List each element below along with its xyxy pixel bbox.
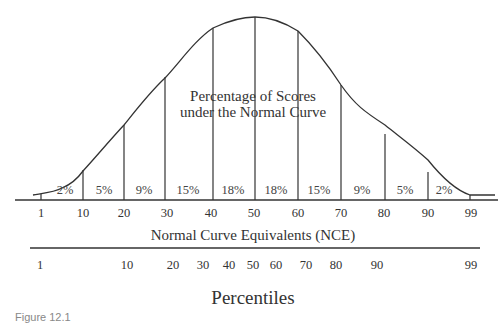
segment-percent: 18% [222,183,245,198]
nce-tick: 99 [465,206,478,221]
nce-tick: 1 [38,206,44,221]
nce-tick: 60 [292,206,305,221]
segment-percent: 9% [136,183,153,198]
nce-axis-title: Normal Curve Equivalents (NCE) [151,227,356,244]
nce-tick: 50 [248,206,261,221]
segment-percent: 9% [354,183,371,198]
percentile-tick: 1 [37,258,43,273]
segment-percent: 2% [57,183,74,198]
percentile-tick: 70 [300,258,313,273]
percentile-tick: 30 [197,258,210,273]
nce-tick: 90 [422,206,435,221]
percentile-tick: 99 [465,258,478,273]
segment-percent: 5% [397,183,414,198]
figure-caption: Figure 12.1 [15,311,71,323]
segment-percent: 5% [96,183,113,198]
nce-tick: 10 [77,206,90,221]
percentile-axis-title: Percentiles [211,287,294,309]
nce-tick: 40 [205,206,218,221]
segment-percent: 15% [308,183,331,198]
percentile-tick: 50 [247,258,260,273]
nce-tick: 30 [161,206,174,221]
percentile-tick: 10 [121,258,134,273]
chart-inner-title: Percentage of Scores under the Normal Cu… [180,88,326,120]
segment-percent: 18% [265,183,288,198]
percentile-tick: 60 [270,258,283,273]
percentile-tick: 20 [167,258,180,273]
percentile-tick: 40 [223,258,236,273]
segment-percent: 15% [177,183,200,198]
title-line-1: Percentage of Scores [180,88,326,104]
percentile-tick: 80 [330,258,343,273]
title-line-2: under the Normal Curve [180,104,326,120]
nce-tick: 70 [335,206,348,221]
segment-percent: 2% [436,183,453,198]
nce-tick: 80 [378,206,391,221]
percentile-tick: 90 [371,258,384,273]
nce-tick: 20 [118,206,131,221]
